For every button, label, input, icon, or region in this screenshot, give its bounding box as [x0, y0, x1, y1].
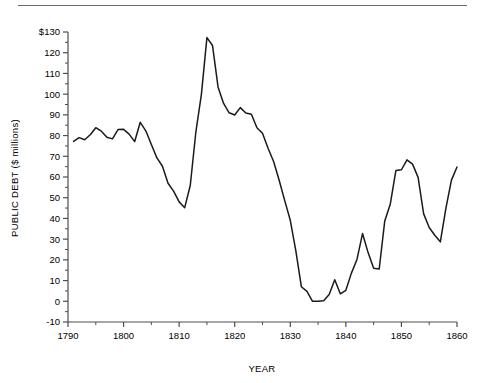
x-axis-title: YEAR [248, 363, 275, 374]
series-line [74, 38, 457, 302]
x-axis: 17901800181018201830184018501860 [57, 322, 467, 341]
public-debt-line-chart: -100102030405060708090100110120$130 1790… [0, 0, 485, 383]
x-tick-label: 1800 [113, 330, 134, 341]
y-tick-label: -10 [46, 316, 60, 327]
y-axis-title: PUBLIC DEBT ($ millions) [9, 119, 20, 237]
y-tick-label: $130 [39, 26, 60, 37]
chart-figure: -100102030405060708090100110120$130 1790… [0, 0, 485, 383]
y-tick-label: 120 [44, 47, 60, 58]
x-tick-label: 1840 [335, 330, 356, 341]
data-series-line [74, 38, 457, 302]
y-tick-label: 50 [49, 192, 60, 203]
x-tick-label: 1830 [280, 330, 301, 341]
x-tick-label: 1790 [57, 330, 78, 341]
y-tick-label: 70 [49, 151, 60, 162]
y-tick-label: 40 [49, 213, 60, 224]
x-tick-label: 1860 [446, 330, 467, 341]
y-tick-label: 30 [49, 234, 60, 245]
y-tick-label: 0 [55, 296, 60, 307]
y-tick-label: 80 [49, 130, 60, 141]
x-tick-label: 1820 [224, 330, 245, 341]
y-tick-label: 90 [49, 109, 60, 120]
y-tick-label: 60 [49, 171, 60, 182]
y-tick-label: 20 [49, 254, 60, 265]
x-tick-label: 1810 [169, 330, 190, 341]
x-tick-label: 1850 [391, 330, 412, 341]
y-tick-label: 100 [44, 89, 60, 100]
y-axis: -100102030405060708090100110120$130 [39, 26, 68, 327]
y-tick-label: 10 [49, 275, 60, 286]
y-tick-label: 110 [45, 68, 60, 79]
